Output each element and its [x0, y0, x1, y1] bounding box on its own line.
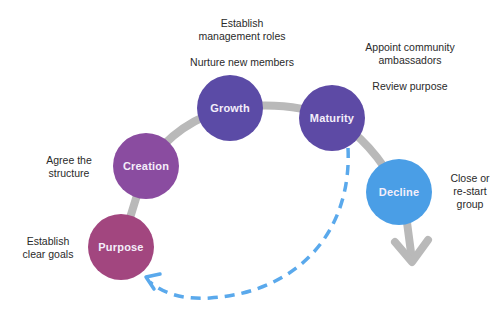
stage-label-creation: Creation [123, 160, 169, 172]
note-growth: Nurture new members [172, 56, 312, 69]
note-maturity-top: Appoint community ambassadors [350, 41, 470, 67]
stage-label-purpose: Purpose [98, 241, 143, 253]
stage-node-purpose: Purpose [88, 214, 154, 280]
loop-back-arrowhead-icon [146, 274, 160, 289]
note-purpose: Establish clear goals [17, 235, 79, 261]
stage-node-maturity: Maturity [299, 85, 365, 151]
stage-label-decline: Decline [379, 186, 420, 198]
loop-back-dashed-arrow [150, 148, 348, 298]
stage-label-growth: Growth [210, 102, 250, 114]
note-maturity: Review purpose [355, 80, 465, 93]
stage-node-growth: Growth [197, 75, 263, 141]
note-decline: Close or re-start group [442, 172, 498, 211]
stage-node-decline: Decline [366, 159, 432, 225]
stage-node-creation: Creation [113, 133, 179, 199]
note-creation: Agree the structure [38, 154, 100, 180]
note-growth-top: Establish management roles [182, 17, 302, 43]
stage-label-maturity: Maturity [310, 112, 354, 124]
